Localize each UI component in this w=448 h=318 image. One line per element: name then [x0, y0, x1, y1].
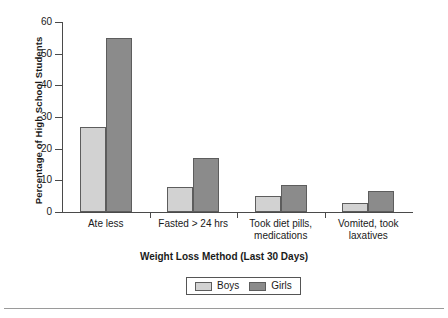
y-axis-tick — [55, 180, 62, 181]
bottom-divider — [4, 308, 444, 309]
x-axis-category-label: Vomited, tooklaxatives — [325, 218, 413, 241]
legend-label: Girls — [271, 281, 292, 291]
y-axis-tick-label: 50 — [28, 49, 52, 59]
category-label-line: medications — [237, 230, 325, 242]
legend-item-boys: Boys — [195, 281, 239, 291]
bar-boys-0 — [80, 127, 106, 213]
bar-boys-2 — [255, 196, 281, 212]
bar-boys-3 — [342, 203, 368, 213]
bar-girls-2 — [281, 185, 307, 212]
category-label-line: Fasted > 24 hrs — [150, 218, 238, 230]
bar-boys-1 — [167, 187, 193, 212]
legend-swatch-girls — [249, 282, 266, 291]
y-axis-tick — [55, 212, 62, 213]
y-axis-tick — [55, 85, 62, 86]
x-axis-category-label: Ate less — [62, 218, 150, 230]
x-axis-title: Weight Loss Method (Last 30 Days) — [0, 251, 448, 262]
category-label-line: Ate less — [62, 218, 150, 230]
y-axis-tick-label: 30 — [28, 112, 52, 122]
y-axis-tick-label: 40 — [28, 80, 52, 90]
category-label-line: Took diet pills, — [237, 218, 325, 230]
bar-chart-figure: Percentage of High School Students 01020… — [0, 0, 448, 318]
category-label-line: laxatives — [325, 230, 413, 242]
bar-girls-3 — [368, 191, 394, 212]
y-axis-tick — [55, 117, 62, 118]
y-axis-tick-label: 0 — [28, 207, 52, 217]
chart-legend: BoysGirls — [186, 277, 301, 295]
x-axis-category-label: Took diet pills,medications — [237, 218, 325, 241]
bar-girls-0 — [106, 38, 132, 212]
y-axis-tick — [55, 149, 62, 150]
category-label-line: Vomited, took — [325, 218, 413, 230]
y-axis-tick-label: 10 — [28, 175, 52, 185]
y-axis-tick — [55, 22, 62, 23]
legend-item-girls: Girls — [249, 281, 292, 291]
y-axis-tick-label: 60 — [28, 17, 52, 27]
bar-girls-1 — [193, 158, 219, 212]
y-axis-tick — [55, 54, 62, 55]
legend-swatch-boys — [195, 282, 212, 291]
y-axis-tick-label: 20 — [28, 144, 52, 154]
x-axis-category-label: Fasted > 24 hrs — [150, 218, 238, 230]
legend-label: Boys — [217, 281, 239, 291]
plot-area — [62, 22, 412, 212]
